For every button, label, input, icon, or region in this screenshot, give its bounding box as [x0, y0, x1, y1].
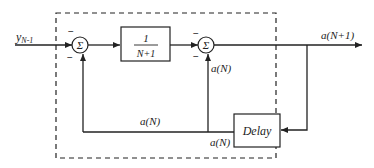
feedback-label-bottom: a(N): [140, 115, 161, 128]
output-label: a(N+1): [321, 29, 354, 42]
delay-label: Delay: [242, 124, 272, 138]
sigma-icon: Σ: [76, 39, 84, 51]
gain-numerator: 1: [143, 32, 149, 44]
sum1-sign-top: −: [68, 26, 74, 37]
sum1-sign-bottom: −: [67, 52, 73, 63]
block-diagram: yN-1 Σ − − 1 N+1 Σ − − a(N+1) Delay a(N)…: [0, 0, 374, 168]
delay-output-label: a(N): [210, 136, 231, 149]
sum2-sign-bottom: −: [193, 51, 199, 62]
output-to-delay-arrow: [281, 45, 307, 130]
sigma-icon: Σ: [202, 39, 210, 51]
gain-denominator: N+1: [136, 48, 155, 59]
input-label: yN-1: [15, 30, 33, 45]
feedback-label-vertical: a(N): [211, 62, 232, 75]
sum2-sign-top: −: [193, 28, 199, 39]
